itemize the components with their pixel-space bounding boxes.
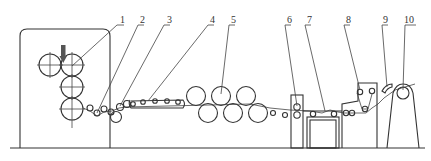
- label-3: 3: [167, 14, 172, 25]
- guide-roll-unit: [108, 101, 131, 123]
- label-8: 8: [346, 14, 351, 25]
- label-4: 4: [210, 14, 215, 25]
- label-2: 2: [140, 14, 145, 25]
- label-6: 6: [287, 14, 292, 25]
- leader-lines: [72, 25, 416, 113]
- label-10: 10: [404, 14, 414, 25]
- diagram-canvas: 1 2 3 4 5 6 7 8 9 10: [0, 0, 431, 161]
- production-line-diagram: 1 2 3 4 5 6 7 8 9 10: [0, 0, 431, 161]
- tension-unit: [342, 83, 377, 148]
- calender-unit: [20, 29, 110, 148]
- winder-unit: [387, 84, 419, 148]
- label-9: 9: [383, 14, 388, 25]
- label-1: 1: [120, 14, 125, 25]
- press-arrow-icon: [61, 45, 66, 57]
- heating-table-unit: [303, 111, 342, 148]
- label-5: 5: [231, 14, 236, 25]
- label-7: 7: [307, 14, 312, 25]
- nip-roll-stand: [283, 95, 304, 148]
